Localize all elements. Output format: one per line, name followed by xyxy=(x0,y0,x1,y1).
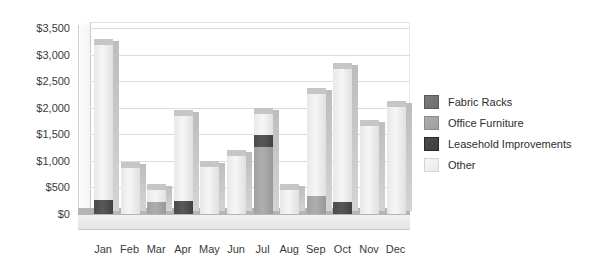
bar-segment[interactable] xyxy=(200,166,219,214)
x-axis-tick-label: Jan xyxy=(88,243,118,255)
bar-column[interactable] xyxy=(254,113,280,214)
bar-top-cap xyxy=(254,108,273,114)
y-axis-tick-label: $3,000 xyxy=(36,49,70,61)
chart-container: $0$500$1,000$1,500$2,000$2,500$3,000$3,5… xyxy=(0,0,600,271)
bar-column[interactable] xyxy=(147,189,173,215)
bar-segment[interactable] xyxy=(333,68,352,202)
plot-area xyxy=(78,22,410,230)
y-axis-tick-label: $1,500 xyxy=(36,128,70,140)
x-axis-tick-label: Sep xyxy=(301,243,331,255)
legend-item[interactable]: Other xyxy=(424,156,600,174)
x-axis-tick-label: Jun xyxy=(221,243,251,255)
x-axis-tick-label: Jul xyxy=(248,243,278,255)
x-axis-tick-label: Feb xyxy=(115,243,145,255)
bar-top-cap xyxy=(333,63,352,69)
y-axis-tick-label: $1,000 xyxy=(36,155,70,167)
bar-segment[interactable] xyxy=(147,202,166,214)
bar-side-face xyxy=(379,122,385,211)
stacked-bar[interactable] xyxy=(147,189,166,215)
legend-label: Office Furniture xyxy=(448,117,524,129)
x-axis-tick-label: Dec xyxy=(381,243,411,255)
bar-column[interactable] xyxy=(121,167,147,214)
stacked-bar[interactable] xyxy=(360,125,379,214)
bar-segment[interactable] xyxy=(94,200,113,214)
bar-side-face xyxy=(352,65,358,211)
bar-top-cap xyxy=(360,120,379,126)
bar-side-face xyxy=(299,186,305,212)
bar-column[interactable] xyxy=(227,155,253,214)
bar-segment[interactable] xyxy=(307,196,326,214)
bar-top-cap xyxy=(174,110,193,116)
bar-column[interactable] xyxy=(200,166,226,214)
bar-side-face xyxy=(193,112,199,211)
bar-top-cap xyxy=(121,162,140,168)
bar-segment[interactable] xyxy=(174,201,193,214)
x-axis-tick-label: Apr xyxy=(168,243,198,255)
legend-swatch xyxy=(424,158,439,172)
legend-label: Fabric Racks xyxy=(448,96,512,108)
bar-segment[interactable] xyxy=(174,115,193,201)
legend-item[interactable]: Leasehold Improvements xyxy=(424,135,600,153)
bar-top-cap xyxy=(200,161,219,167)
bar-side-face xyxy=(113,41,119,211)
bar-series-layer xyxy=(90,22,410,214)
bar-top-cap xyxy=(227,150,246,156)
stacked-bar[interactable] xyxy=(254,113,273,214)
bar-segment[interactable] xyxy=(147,189,166,202)
bar-segment[interactable] xyxy=(387,106,406,214)
bar-segment[interactable] xyxy=(94,44,113,200)
stacked-bar[interactable] xyxy=(333,68,352,214)
legend-item[interactable]: Office Furniture xyxy=(424,114,600,132)
bar-top-cap xyxy=(94,39,113,45)
bar-top-cap xyxy=(387,101,406,107)
x-axis-tick-label: May xyxy=(194,243,224,255)
bar-top-cap xyxy=(147,184,166,190)
bar-segment[interactable] xyxy=(227,155,246,214)
bar-segment[interactable] xyxy=(254,135,273,147)
legend-item[interactable]: Fabric Racks xyxy=(424,93,600,111)
stacked-bar[interactable] xyxy=(121,167,140,214)
stacked-bar[interactable] xyxy=(280,189,299,215)
bar-segment[interactable] xyxy=(280,189,299,215)
bar-column[interactable] xyxy=(280,189,306,215)
stacked-bar[interactable] xyxy=(227,155,246,214)
bar-segment[interactable] xyxy=(360,125,379,214)
y-axis-tick-label: $0 xyxy=(58,208,70,220)
bar-top-cap xyxy=(307,88,326,94)
x-axis-labels: JanFebMarAprMayJunJulAugSepOctNovDec xyxy=(90,243,420,261)
bar-side-face xyxy=(166,186,172,212)
legend-label: Leasehold Improvements xyxy=(448,138,572,150)
bar-side-face xyxy=(273,110,279,212)
bar-column[interactable] xyxy=(387,106,413,214)
legend-swatch xyxy=(424,116,439,130)
stacked-bar[interactable] xyxy=(94,44,113,214)
bar-segment[interactable] xyxy=(121,167,140,214)
y-axis-labels: $0$500$1,000$1,500$2,000$2,500$3,000$3,5… xyxy=(0,22,70,230)
y-axis-tick-label: $2,000 xyxy=(36,102,70,114)
bar-side-face xyxy=(140,164,146,211)
stacked-bar[interactable] xyxy=(174,115,193,214)
legend-swatch xyxy=(424,137,439,151)
bar-segment[interactable] xyxy=(254,147,273,214)
x-axis-tick-label: Aug xyxy=(274,243,304,255)
x-axis-tick-label: Nov xyxy=(354,243,384,255)
bar-column[interactable] xyxy=(174,115,200,214)
x-axis-tick-label: Oct xyxy=(327,243,357,255)
y-axis-tick-label: $3,500 xyxy=(36,22,70,34)
legend-label: Other xyxy=(448,159,476,171)
bar-side-face xyxy=(406,103,412,211)
bar-segment[interactable] xyxy=(333,202,352,214)
stacked-bar[interactable] xyxy=(307,93,326,214)
bar-column[interactable] xyxy=(333,68,359,214)
legend-swatch xyxy=(424,95,439,109)
stacked-bar[interactable] xyxy=(200,166,219,214)
bar-column[interactable] xyxy=(307,93,333,214)
bar-segment[interactable] xyxy=(254,113,273,135)
y-axis-tick-label: $500 xyxy=(46,181,70,193)
bar-column[interactable] xyxy=(360,125,386,214)
bar-top-cap xyxy=(280,184,299,190)
bar-column[interactable] xyxy=(94,44,120,214)
bar-segment[interactable] xyxy=(307,93,326,197)
stacked-bar[interactable] xyxy=(387,106,406,214)
chart-floor-front xyxy=(78,215,410,230)
